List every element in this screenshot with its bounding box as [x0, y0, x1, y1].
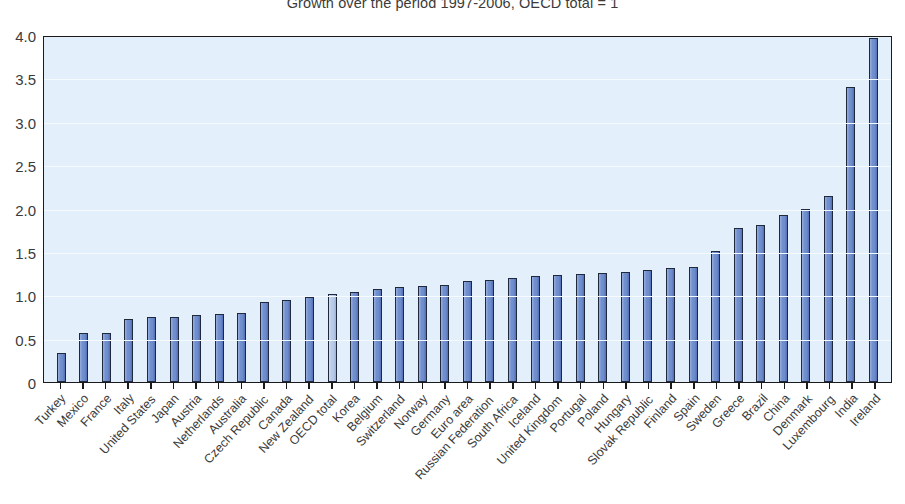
- bar[interactable]: [643, 270, 652, 382]
- bar[interactable]: [395, 287, 404, 382]
- bar[interactable]: [147, 317, 156, 382]
- gridline: [44, 79, 891, 80]
- bar[interactable]: [846, 87, 855, 382]
- chart-title: Growth over the period 1997-2006, OECD t…: [0, 0, 905, 11]
- x-axis-labels: TurkeyMexicoFranceItalyUnited StatesJapa…: [43, 389, 892, 504]
- bar[interactable]: [779, 215, 788, 382]
- bar[interactable]: [756, 225, 765, 382]
- bar[interactable]: [801, 209, 810, 383]
- bar[interactable]: [215, 314, 224, 382]
- bar[interactable]: [734, 228, 743, 382]
- bar[interactable]: [576, 274, 585, 382]
- y-tick-label: 2.5: [15, 158, 36, 175]
- bar[interactable]: [440, 285, 449, 382]
- y-tick-label: 1.0: [15, 288, 36, 305]
- bar[interactable]: [373, 289, 382, 382]
- y-tick-label: 1.5: [15, 244, 36, 261]
- bar[interactable]: [598, 273, 607, 382]
- bar[interactable]: [666, 268, 675, 383]
- bar[interactable]: [531, 276, 540, 382]
- y-tick-label: 0.5: [15, 331, 36, 348]
- chart-container: Growth over the period 1997-2006, OECD t…: [0, 0, 905, 504]
- bar[interactable]: [282, 300, 291, 382]
- y-tick-label: 4.0: [15, 28, 36, 45]
- bar[interactable]: [824, 196, 833, 383]
- bar[interactable]: [170, 317, 179, 382]
- bar[interactable]: [621, 272, 630, 382]
- bar[interactable]: [57, 353, 66, 382]
- y-tick-label: 2.0: [15, 201, 36, 218]
- gridline: [44, 296, 891, 297]
- bar[interactable]: [350, 292, 359, 382]
- x-label-slot: Ireland: [864, 389, 887, 504]
- y-tick-label: 3.5: [15, 71, 36, 88]
- bar[interactable]: [711, 251, 720, 382]
- bar[interactable]: [689, 267, 698, 382]
- y-tick-label: 0: [28, 375, 36, 392]
- plot-area: [43, 36, 892, 383]
- gridline: [44, 123, 891, 124]
- gridline: [44, 253, 891, 254]
- bar[interactable]: [260, 302, 269, 382]
- gridline: [44, 166, 891, 167]
- bar[interactable]: [418, 286, 427, 382]
- y-tick-label: 3.0: [15, 114, 36, 131]
- bar[interactable]: [485, 280, 494, 382]
- bar[interactable]: [79, 333, 88, 382]
- bar[interactable]: [124, 319, 133, 382]
- bar[interactable]: [237, 313, 246, 382]
- bar[interactable]: [328, 294, 337, 382]
- gridline: [44, 340, 891, 341]
- bar[interactable]: [553, 275, 562, 382]
- bar[interactable]: [192, 315, 201, 382]
- y-axis: 00.51.01.52.02.53.03.54.0: [0, 36, 43, 383]
- gridline: [44, 210, 891, 211]
- bar[interactable]: [508, 278, 517, 382]
